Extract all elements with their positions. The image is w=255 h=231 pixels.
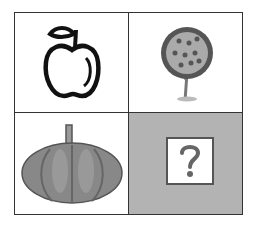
question-mark-icon	[178, 143, 202, 179]
answer-box[interactable]	[166, 137, 214, 185]
apple-icon	[42, 24, 102, 100]
cell-answer[interactable]	[129, 113, 242, 214]
cell-apple	[15, 13, 129, 113]
tree-icon	[157, 21, 217, 105]
pumpkin-icon	[20, 123, 124, 205]
cell-tree	[129, 13, 242, 113]
analogy-puzzle-grid	[14, 12, 243, 215]
cell-pumpkin	[15, 113, 129, 214]
